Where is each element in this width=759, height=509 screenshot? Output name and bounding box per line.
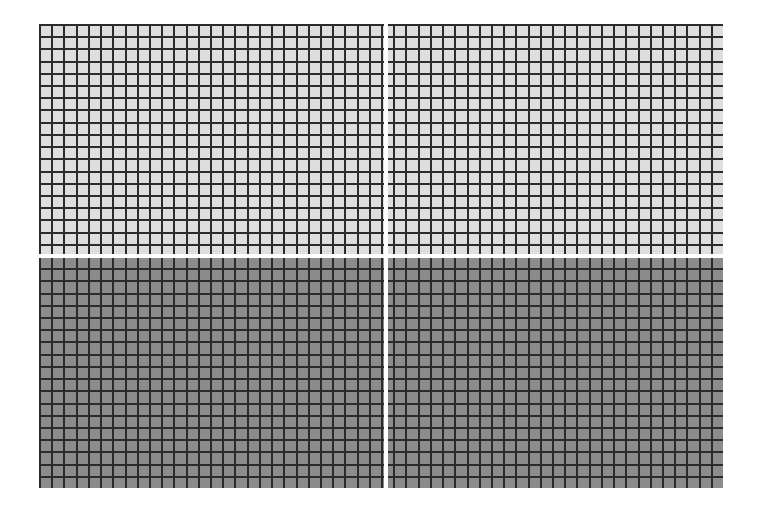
horizontal-divider xyxy=(39,254,723,258)
checker-grid-figure xyxy=(39,24,723,488)
